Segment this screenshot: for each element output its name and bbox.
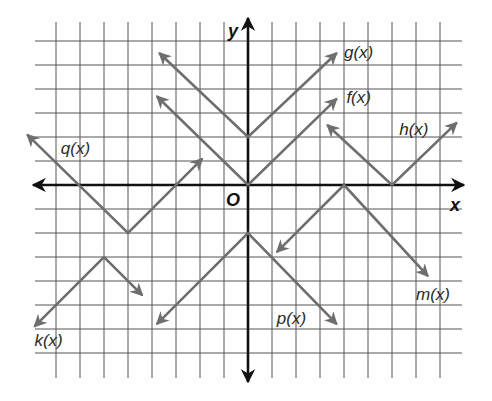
graph-m-of-x [277,185,428,276]
function-label: k(x) [34,331,62,350]
function-label: g(x) [344,43,373,62]
function-label: m(x) [416,285,450,304]
y-axis-label: y [227,21,239,41]
axes: x y O [33,18,464,382]
x-axis-label: x [449,195,461,215]
coordinate-plane: x y O g(x)f(x)h(x)q(x)k(x)p(x)m(x) [0,0,492,401]
function-label: h(x) [399,120,428,139]
origin-label: O [226,190,240,210]
function-label: f(x) [346,88,371,107]
graph-k-of-x [34,257,142,327]
function-label: q(x) [61,139,90,158]
function-label: p(x) [276,309,306,328]
